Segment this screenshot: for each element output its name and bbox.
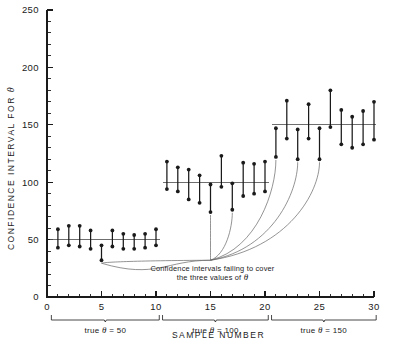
x-tick-label: 5	[99, 301, 105, 312]
y-tick-label: 100	[22, 177, 39, 188]
ci-lower-cap	[296, 157, 300, 161]
ci-upper-cap	[89, 229, 93, 233]
ci-lower-cap	[111, 245, 115, 249]
x-tick-label: 15	[205, 301, 216, 312]
ci-upper-cap	[198, 173, 202, 177]
confidence-interval-sample-19	[252, 162, 256, 196]
ci-lower-cap	[318, 157, 322, 161]
confidence-interval-chart: 050100150200250051015202530CONFIDENCE IN…	[0, 0, 395, 353]
ci-upper-cap	[296, 127, 300, 131]
ci-upper-cap	[274, 126, 278, 130]
group-bracket-2	[272, 315, 377, 322]
confidence-interval-sample-9	[143, 232, 147, 250]
confidence-interval-sample-3	[78, 224, 82, 248]
ci-upper-cap	[220, 154, 224, 158]
ci-upper-cap	[56, 227, 60, 231]
ci-upper-cap	[307, 102, 311, 106]
group-label-0: true θ = 50	[84, 325, 126, 335]
ci-upper-cap	[143, 232, 147, 236]
confidence-interval-sample-23	[296, 127, 300, 161]
ci-lower-cap	[372, 138, 376, 142]
ci-lower-cap	[274, 155, 278, 159]
confidence-interval-sample-30	[372, 100, 376, 142]
x-tick-label: 20	[259, 301, 270, 312]
group-label-2: true θ = 150	[301, 325, 348, 335]
ci-lower-cap	[165, 187, 169, 191]
y-axis-title: CONFIDENCE INTERVAL FOR θ	[5, 86, 16, 250]
ci-upper-cap	[263, 160, 267, 164]
ci-upper-cap	[329, 88, 333, 92]
confidence-interval-sample-12	[176, 165, 180, 193]
ci-upper-cap	[252, 162, 256, 166]
confidence-interval-sample-21	[274, 126, 278, 159]
confidence-interval-sample-24	[307, 102, 311, 140]
ci-lower-cap	[56, 246, 60, 250]
ci-upper-cap	[154, 227, 158, 231]
confidence-interval-sample-16	[220, 154, 224, 189]
confidence-interval-sample-29	[361, 109, 365, 146]
ci-upper-cap	[241, 161, 245, 165]
ci-upper-cap	[187, 168, 191, 172]
ci-lower-cap	[252, 192, 256, 196]
group-brackets-layer	[51, 315, 376, 322]
ci-upper-cap	[230, 181, 234, 185]
ci-lower-cap	[307, 137, 311, 141]
annotation-line-2: the three values of θ	[177, 272, 249, 282]
ci-upper-cap	[100, 243, 104, 247]
x-tick-label: 30	[368, 301, 379, 312]
x-tick-label: 0	[44, 301, 50, 312]
plot-svg: 050100150200250051015202530CONFIDENCE IN…	[0, 0, 395, 353]
ci-lower-cap	[220, 185, 224, 189]
ci-lower-cap	[89, 247, 93, 251]
confidence-interval-sample-20	[263, 160, 267, 194]
ci-upper-cap	[121, 232, 125, 236]
ci-lower-cap	[187, 198, 191, 202]
confidence-interval-sample-27	[339, 108, 343, 146]
ci-upper-cap	[78, 224, 82, 228]
ci-lower-cap	[121, 247, 125, 251]
ci-lower-cap	[100, 258, 104, 262]
ci-upper-cap	[350, 115, 354, 119]
ci-upper-cap	[132, 233, 136, 237]
interval-data-layer	[56, 88, 376, 262]
y-tick-label: 0	[33, 291, 39, 302]
confidence-interval-sample-5	[100, 243, 104, 262]
confidence-interval-sample-10	[154, 227, 158, 247]
ci-lower-cap	[143, 246, 147, 250]
ci-upper-cap	[285, 99, 289, 103]
group-bracket-0	[51, 315, 159, 322]
ci-lower-cap	[241, 194, 245, 198]
ci-lower-cap	[361, 142, 365, 146]
ci-upper-cap	[209, 183, 213, 187]
ci-upper-cap	[165, 160, 169, 164]
reference-lines-layer	[50, 125, 376, 240]
confidence-interval-sample-2	[67, 224, 71, 247]
ci-lower-cap	[154, 243, 158, 247]
text-labels-layer: 050100150200250051015202530CONFIDENCE IN…	[5, 4, 380, 340]
ci-upper-cap	[318, 126, 322, 130]
ci-upper-cap	[339, 108, 343, 112]
confidence-interval-sample-22	[285, 99, 289, 141]
ci-lower-cap	[209, 210, 213, 214]
ci-lower-cap	[78, 245, 82, 249]
confidence-interval-sample-14	[198, 173, 202, 204]
leader-lines-layer	[102, 160, 320, 270]
ci-lower-cap	[176, 189, 180, 193]
ci-upper-cap	[176, 165, 180, 169]
ci-lower-cap	[230, 208, 234, 212]
confidence-interval-sample-17	[230, 181, 234, 211]
annotation-line-1: Confidence intervals failing to cover	[150, 264, 274, 273]
ci-upper-cap	[111, 229, 115, 233]
leader-line-sample-17	[211, 213, 233, 261]
ci-lower-cap	[132, 247, 136, 251]
confidence-interval-sample-8	[132, 233, 136, 251]
confidence-interval-sample-7	[121, 232, 125, 251]
group-bracket-1	[163, 315, 269, 322]
ci-upper-cap	[67, 224, 71, 228]
ci-lower-cap	[350, 146, 354, 150]
confidence-interval-sample-25	[318, 126, 322, 161]
ci-lower-cap	[285, 137, 289, 141]
confidence-interval-sample-28	[350, 115, 354, 150]
x-tick-label: 25	[314, 301, 325, 312]
leader-line-sample-5	[102, 260, 211, 263]
